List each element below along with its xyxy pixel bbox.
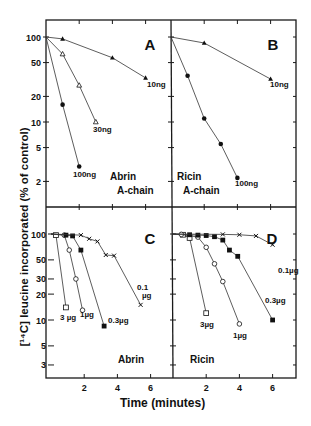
series-line [51,234,66,307]
filled-circle-marker [219,142,224,147]
panel-name-b-line2: A-chain [183,185,220,196]
filled-circle-marker [60,102,65,107]
panel-name-c: Abrin [118,354,144,365]
panel-name-a-line2: A-chain [117,185,154,196]
y-tick-label: 5 [36,143,41,153]
panel-letter-d: D [267,230,278,247]
filled-circle-marker [185,73,190,78]
y-tick-label: 100 [26,33,41,43]
series-line [173,234,206,313]
panel-name-a: Abrin [110,171,136,182]
series-label: 10ng [147,80,166,89]
open-circle-marker [212,262,217,267]
series-label: 0.1µg [278,266,299,275]
filled-square-marker [220,238,225,243]
x-tick-label: 6 [270,383,275,393]
y-tick-label: 2 [36,177,41,187]
series-label: 10ng [270,80,289,89]
filled-square-marker [102,324,107,329]
open-triangle-marker [77,83,82,87]
y-tick-label: 20 [36,290,46,300]
panel-frames [46,20,296,378]
y-tick-label: 50 [31,58,41,68]
filled-circle-marker [77,164,82,169]
x-tick-label: 2 [204,383,209,393]
filled-square-marker [78,248,83,253]
y-axis-label-text: [¹⁴C] leucine incorporated (% of control… [18,127,30,346]
open-circle-marker [74,277,79,282]
x-tick-label: 4 [115,383,120,393]
open-square-marker [204,311,209,316]
series-line [173,234,273,320]
vertical-divider [171,20,173,378]
panel-letter-c: C [145,230,156,247]
open-triangle-marker [93,119,98,123]
series-label: 3 µg [60,313,76,322]
panel-name-b: Ricin [177,171,201,182]
y-tick-label: 30 [36,274,46,284]
series-label: 0.3µg [108,316,129,325]
series-line [46,37,79,166]
series-label: 0.3µg [265,296,286,305]
series-label: 3µg [200,320,214,329]
series-line [171,37,237,178]
series-label: 100ng [73,170,96,179]
y-tick-label: 50 [36,255,46,265]
panel-name-d: Ricin [190,354,214,365]
cross-marker [139,303,143,307]
series-label: 100ng [235,179,258,188]
filled-square-marker [70,234,75,239]
cross-marker [87,237,91,241]
filled-square-marker [196,233,201,238]
filled-square-marker [227,248,232,253]
axes [43,20,296,378]
filled-square-marker [64,233,69,238]
filled-square-marker [187,232,192,237]
series-label: µg [142,291,152,300]
series-label: 1µg [233,331,247,340]
y-axis-label: [¹⁴C] leucine incorporated (% of control… [14,122,34,352]
open-circle-marker [67,248,72,253]
figure-canvas: 100502010521005030201053246246ABCDAbrinA… [0,0,311,426]
open-circle-marker [221,279,226,284]
x-tick-label: 6 [148,383,153,393]
open-circle-marker [204,245,209,250]
x-axis-label: Time (minutes) [120,396,205,410]
series-label: 1µg [80,310,94,319]
x-tick-label: 2 [82,383,87,393]
x-tick-label: 4 [237,383,242,393]
y-tick-label: 10 [36,316,46,326]
y-tick-label: 5 [41,341,46,351]
cross-marker [95,239,99,243]
filled-square-marker [270,318,275,323]
annotations: 100502010521005030201053246246ABCDAbrinA… [26,33,299,394]
open-square-marker [54,233,59,238]
filled-circle-marker [202,116,207,121]
filled-square-marker [212,234,217,239]
filled-square-marker [235,254,240,259]
series-line [46,37,96,122]
panel-letter-b: B [268,36,279,53]
series-line [46,37,146,78]
y-tick-label: 3 [41,360,46,370]
y-tick-label: 20 [31,92,41,102]
open-square-marker [64,305,69,310]
panel-letter-a: A [145,36,156,53]
series-label: 30ng [93,125,112,134]
open-circle-marker [237,322,242,327]
